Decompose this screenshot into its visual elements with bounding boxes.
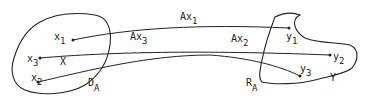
label-y1: y1 bbox=[286, 31, 297, 46]
label-x1: x1 bbox=[54, 31, 65, 46]
arrow-ax1 bbox=[73, 27, 289, 41]
arrow-ax3 bbox=[40, 52, 330, 58]
point-y2-dot bbox=[329, 54, 332, 57]
label-set-x: X bbox=[60, 56, 66, 67]
point-x3-dot bbox=[39, 57, 42, 60]
label-domain: DA bbox=[88, 77, 100, 93]
label-x2: x2 bbox=[31, 72, 42, 87]
label-range: RA bbox=[246, 77, 258, 93]
point-y1-dot bbox=[288, 27, 291, 30]
point-y3-dot bbox=[299, 75, 302, 78]
label-ax1: Ax1 bbox=[180, 11, 197, 26]
label-ax3: Ax3 bbox=[130, 31, 147, 46]
point-x1-dot bbox=[72, 39, 75, 42]
label-x3: x3 bbox=[27, 53, 38, 68]
label-y3: y3 bbox=[300, 63, 311, 78]
label-y2: y2 bbox=[333, 51, 344, 66]
label-set-y: Y bbox=[330, 72, 336, 83]
label-ax2: Ax2 bbox=[231, 33, 248, 48]
mapping-diagram: x1 x3 x2 X DA Ax1 Ax3 Ax2 y1 y2 y3 Y RA bbox=[0, 0, 385, 101]
